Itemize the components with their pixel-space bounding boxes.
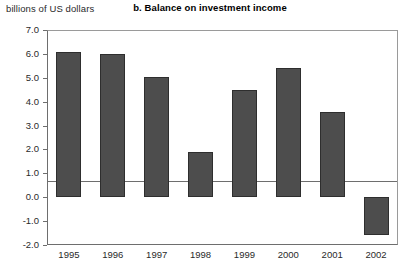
y-tick-mark: [43, 245, 47, 246]
y-tick-label: -2.0: [23, 239, 39, 250]
y-tick-label: 2.0: [26, 143, 39, 154]
chart-title: b. Balance on investment income: [0, 2, 420, 13]
y-tick-label: 5.0: [26, 72, 39, 83]
chart-figure: billions of US dollars b. Balance on inv…: [0, 0, 420, 266]
bar-1996: [100, 54, 125, 197]
bar-1995: [56, 52, 81, 198]
y-tick-label: 4.0: [26, 96, 39, 107]
x-tick-label: 1996: [91, 249, 135, 260]
x-tick-label: 1995: [47, 249, 91, 260]
y-tick-label: 3.0: [26, 120, 39, 131]
bar-2001: [320, 112, 345, 197]
x-tick-label: 1998: [179, 249, 223, 260]
x-tick-label: 2000: [266, 249, 310, 260]
y-tick-label: -1.0: [23, 215, 39, 226]
x-tick-label: 2001: [310, 249, 354, 260]
bar-2000: [276, 68, 301, 197]
bar-1998: [188, 152, 213, 197]
bar-1999: [232, 90, 257, 198]
x-tick-label: 1997: [135, 249, 179, 260]
y-tick-label: 0.0: [26, 191, 39, 202]
bar-2002: [364, 197, 389, 235]
y-tick-label: 6.0: [26, 48, 39, 59]
bar-series: [47, 30, 398, 245]
x-axis: 19951996199719981999200020012002: [47, 247, 398, 265]
x-tick-label: 1999: [223, 249, 267, 260]
y-axis: 7.06.05.04.03.02.01.00.0-1.0-2.0: [0, 0, 47, 266]
y-tick-label: 7.0: [26, 24, 39, 35]
x-tick-label: 2002: [354, 249, 398, 260]
y-tick-label: 1.0: [26, 167, 39, 178]
bar-1997: [144, 77, 169, 198]
